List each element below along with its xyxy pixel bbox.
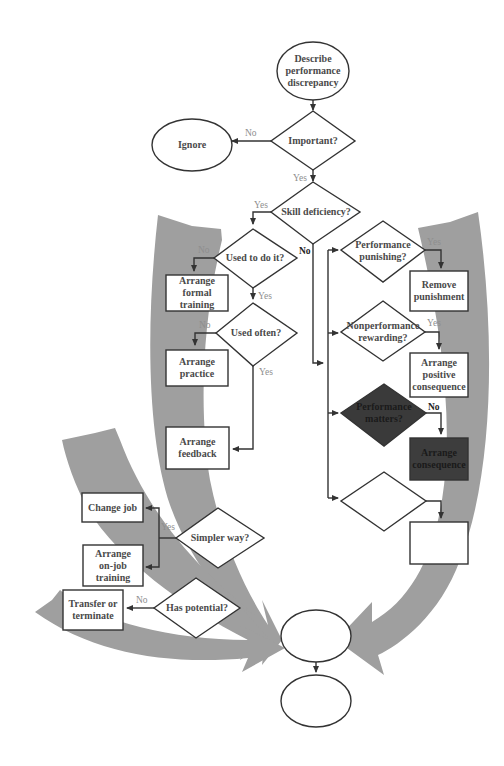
label-change-job: Change job [82, 493, 143, 522]
edge-label-skill-no: No [299, 246, 311, 256]
edge-label-potential-no: No [136, 595, 148, 605]
label-start: Describe performance discrepancy [277, 48, 349, 94]
label-nonperformance-rewarding: Nonperformance rewarding? [339, 319, 427, 345]
label-simpler-way: Simpler way? [176, 530, 264, 546]
label-arrange-formal-training: Arrange formal training [166, 275, 228, 311]
edge-label-used-often-yes: Yes [259, 367, 273, 377]
label-arrange-feedback: Arrange feedback [166, 427, 229, 469]
label-arrange-on-job-training: Arrange on-job training [83, 545, 143, 586]
label-skill-deficiency: Skill deficiency? [271, 204, 361, 220]
label-transfer-or-terminate: Transfer or terminate [63, 590, 123, 630]
label-used-often: Used often? [216, 325, 296, 341]
edge-label-rewarding-yes: Yes [427, 318, 441, 328]
edge-label-important-no: No [245, 128, 257, 138]
label-performance-matters: Performance matters? [341, 400, 427, 426]
label-used-to-do-it: Used to do it? [214, 250, 296, 266]
edge-label-important-yes: Yes [293, 173, 307, 183]
edge-label-skill-yes: Yes [254, 200, 268, 210]
edge-label-used-to-do-yes: Yes [258, 291, 272, 301]
label-remove-punishment: Remove punishment [410, 271, 468, 311]
label-has-potential: Has potential? [154, 600, 240, 616]
edge-label-simpler-yes: Yes [161, 522, 175, 532]
edge-label-matters-no: No [428, 402, 440, 412]
node-blank-ellipse-2[interactable] [281, 675, 351, 727]
label-performance-punishing: Performance punishing? [341, 238, 425, 264]
node-blank-box[interactable] [410, 522, 468, 564]
edge-label-punishing-yes: Yes [427, 237, 441, 247]
label-important: Important? [273, 133, 353, 149]
label-ignore: Ignore [152, 136, 232, 154]
label-arrange-consequence: Arrange consequence [408, 438, 470, 480]
label-arrange-practice: Arrange practice [166, 350, 228, 386]
edge-label-used-to-do-no: No [198, 245, 210, 255]
edge-label-used-often-no: No [199, 320, 211, 330]
label-arrange-positive-consequence: Arrange positive consequence [408, 353, 470, 397]
node-blank-ellipse-1[interactable] [281, 610, 351, 662]
